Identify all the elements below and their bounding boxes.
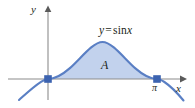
y-axis-label: y: [31, 4, 36, 15]
equation-equals-sign: =: [104, 24, 113, 36]
equation-function-name: sin: [113, 24, 127, 36]
equation-argument: x: [127, 24, 132, 36]
figure-canvas: [0, 0, 195, 108]
curve-equation-label: y=sinx: [99, 25, 132, 37]
x-axis-arrowhead: [180, 76, 187, 83]
area-region-label: A: [101, 59, 108, 71]
x-axis-label: x: [176, 83, 181, 94]
origin-intercept-marker: [44, 75, 52, 83]
sine-area-figure: y x π A y=sinx: [0, 0, 195, 108]
pi-tick-label: π: [152, 83, 157, 93]
y-axis-arrowhead: [45, 6, 52, 13]
